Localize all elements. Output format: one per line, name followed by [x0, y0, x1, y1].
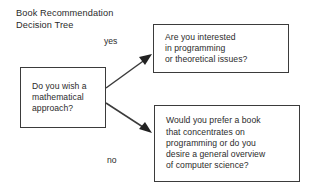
outcome-node-yes-label: Are you interested in programming or the…: [165, 32, 247, 66]
edge-label-no: no: [107, 155, 117, 165]
outcome-node-yes: Are you interested in programming or the…: [153, 24, 289, 73]
edge-label-yes: yes: [104, 36, 117, 46]
edge-yes-arrow: [106, 54, 152, 88]
decision-node-question-label: Do you wish a mathematical approach?: [32, 81, 87, 115]
outcome-node-no-label: Would you prefer a book that concentrate…: [166, 115, 265, 171]
edge-no-arrow: [106, 103, 152, 133]
outcome-node-no: Would you prefer a book that concentrate…: [154, 105, 300, 182]
decision-tree-diagram: Book Recommendation Decision Tree Do you…: [0, 0, 309, 196]
decision-node-question: Do you wish a mathematical approach?: [20, 67, 106, 128]
